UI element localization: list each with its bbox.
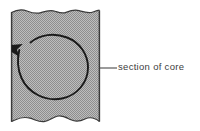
section-of-core-label: section of core	[118, 61, 184, 72]
core-block-fill	[12, 10, 100, 122]
core-block	[12, 10, 100, 122]
